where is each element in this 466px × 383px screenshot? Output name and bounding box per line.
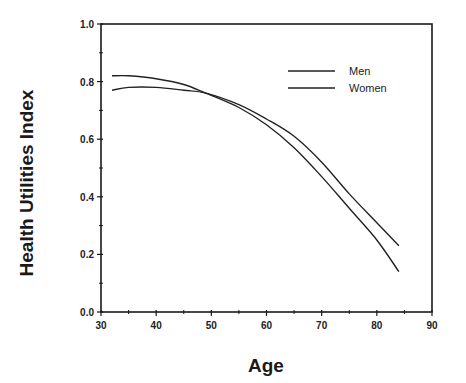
x-axis-ticks: 30405060708090: [95, 310, 438, 331]
plot-border: [101, 24, 432, 312]
y-axis-ticks: 0.00.20.40.60.81.0: [80, 19, 103, 318]
y-tick-label: 0.2: [80, 249, 94, 260]
x-tick-label: 50: [206, 320, 218, 331]
series-lines: [112, 76, 399, 272]
legend-label-men: Men: [349, 65, 370, 77]
y-tick-label: 1.0: [80, 19, 94, 30]
legend-label-women: Women: [349, 82, 387, 94]
y-tick-label: 0.0: [80, 307, 94, 318]
x-tick-label: 40: [151, 320, 163, 331]
line-men: [112, 76, 399, 272]
y-tick-label: 0.6: [80, 134, 94, 145]
x-tick-label: 60: [261, 320, 273, 331]
x-tick-label: 70: [316, 320, 328, 331]
x-axis-title: Age: [248, 355, 284, 376]
y-tick-label: 0.4: [80, 192, 94, 203]
line-women: [112, 87, 399, 246]
x-tick-label: 30: [95, 320, 107, 331]
y-axis-title: Health Utilities Index: [16, 89, 37, 276]
line-chart: 0.00.20.40.60.81.0 30405060708090 MenWom…: [0, 0, 466, 383]
x-tick-label: 80: [371, 320, 383, 331]
legend: MenWomen: [288, 65, 387, 94]
y-tick-label: 0.8: [80, 77, 94, 88]
x-tick-label: 90: [426, 320, 438, 331]
plot-frame: [101, 24, 432, 312]
